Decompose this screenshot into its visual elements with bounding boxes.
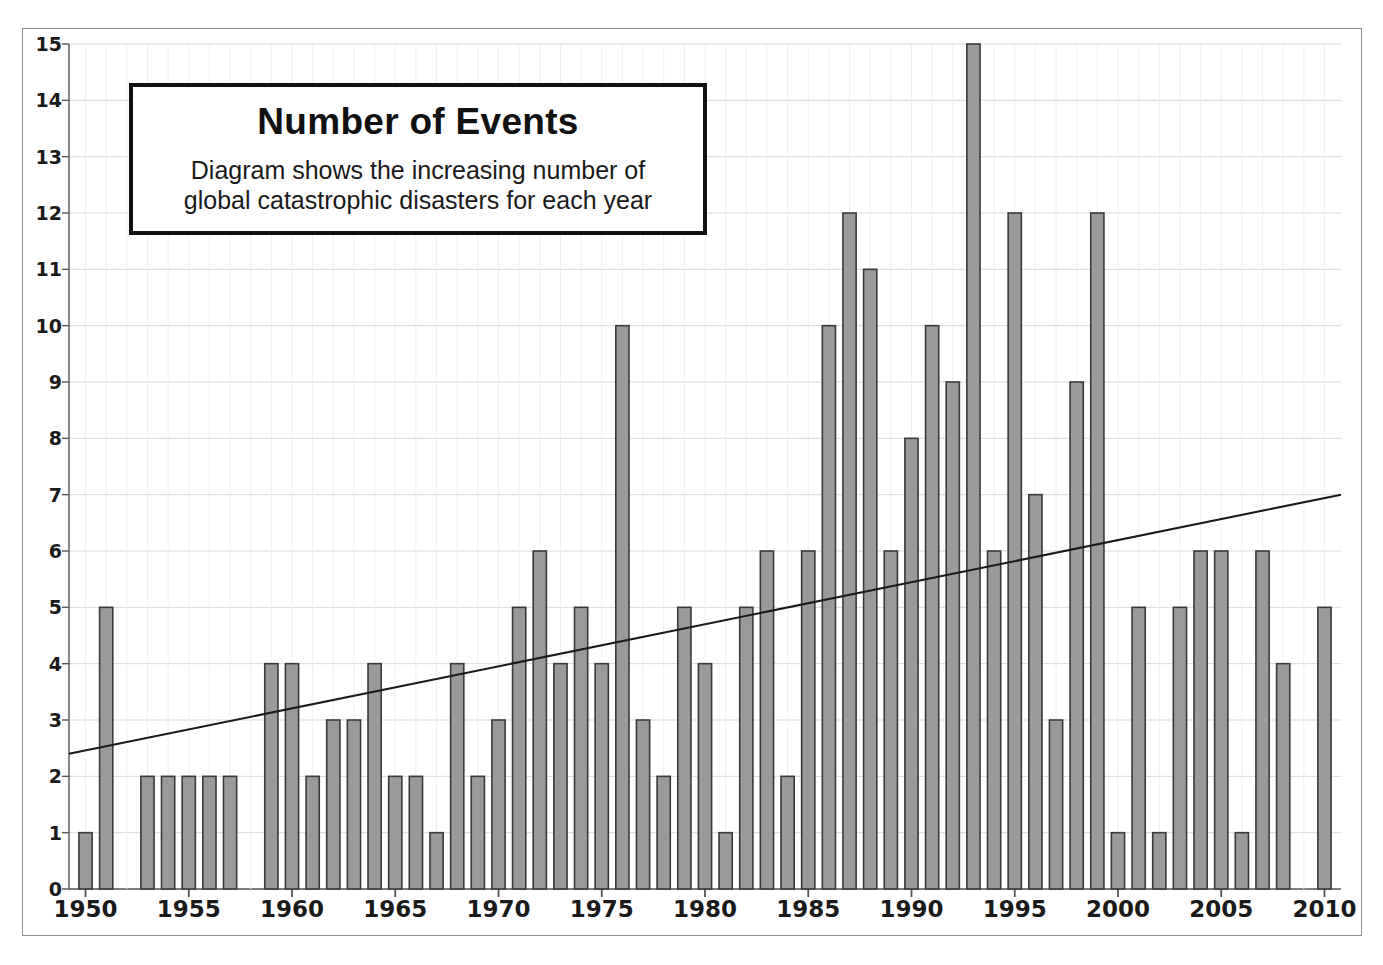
y-axis-tick-labels: 0123456789101112131415 (22, 44, 62, 889)
x-axis-tick-1980: 1980 (673, 896, 737, 922)
y-axis-tick-3: 3 (49, 711, 62, 730)
x-axis-tick-labels: 1950195519601965197019751980198519901995… (69, 896, 1341, 936)
page-title: Number of Events (133, 101, 703, 143)
x-axis-tick-1950: 1950 (54, 896, 118, 922)
y-axis-tick-13: 13 (36, 148, 62, 167)
x-axis-tick-1975: 1975 (570, 896, 634, 922)
y-axis-tick-9: 9 (49, 373, 62, 392)
y-axis-tick-12: 12 (36, 204, 62, 223)
chart-page: 0123456789101112131415 19501955196019651… (0, 0, 1383, 965)
chart-subtitle-line-2: global catastrophic disasters for each y… (133, 186, 703, 216)
chart-callout-box: Number of Events Diagram shows the incre… (129, 83, 707, 235)
x-axis-tick-1970: 1970 (466, 896, 530, 922)
x-axis-tick-2005: 2005 (1189, 896, 1253, 922)
y-axis-tick-2: 2 (49, 767, 62, 786)
x-axis-tick-1985: 1985 (776, 896, 840, 922)
chart-subtitle: Diagram shows the increasing number of g… (133, 156, 703, 215)
x-axis-tick-1990: 1990 (879, 896, 943, 922)
y-axis-tick-1: 1 (49, 824, 62, 843)
chart-subtitle-line-1: Diagram shows the increasing number of (133, 156, 703, 186)
x-axis-tick-2010: 2010 (1292, 896, 1356, 922)
y-axis-tick-11: 11 (36, 260, 62, 279)
y-axis-tick-10: 10 (36, 317, 62, 336)
x-axis-tick-2000: 2000 (1086, 896, 1150, 922)
x-axis-tick-1995: 1995 (983, 896, 1047, 922)
y-axis-tick-15: 15 (36, 35, 62, 54)
y-axis-tick-14: 14 (36, 91, 62, 110)
x-axis-tick-1955: 1955 (157, 896, 221, 922)
y-axis-tick-4: 4 (49, 655, 62, 674)
x-axis-tick-1960: 1960 (260, 896, 324, 922)
y-axis-tick-6: 6 (49, 542, 62, 561)
y-axis-tick-7: 7 (49, 486, 62, 505)
y-axis-tick-8: 8 (49, 429, 62, 448)
x-axis-tick-1965: 1965 (363, 896, 427, 922)
y-axis-tick-5: 5 (49, 598, 62, 617)
